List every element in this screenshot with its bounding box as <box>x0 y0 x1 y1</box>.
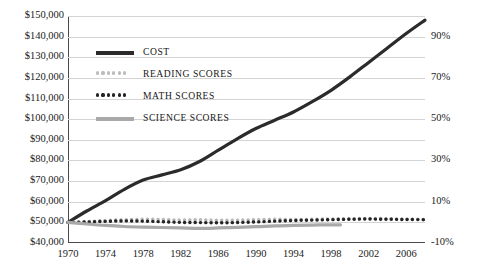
y-axis-right-tick-label: 70% <box>431 71 450 82</box>
y-axis-right-tick-label: 30% <box>431 153 450 164</box>
y-axis-tick-label: $100,000 <box>2 112 64 123</box>
legend-swatch-solid <box>96 117 134 121</box>
y-axis-tick-label: $110,000 <box>2 92 64 103</box>
gridline <box>68 243 425 244</box>
legend-item: MATH SCORES <box>96 86 233 104</box>
y-axis-tick-label: $140,000 <box>2 30 64 41</box>
legend-swatch-dotted <box>96 90 134 100</box>
y-axis-right-tick-label: 10% <box>431 195 450 206</box>
legend-label: READING SCORES <box>143 68 233 79</box>
x-axis-tick-label: 1994 <box>283 248 304 259</box>
y-axis-tick-label: $120,000 <box>2 71 64 82</box>
chart-legend: COSTREADING SCORESMATH SCORESSCIENCE SCO… <box>96 42 233 130</box>
y-axis-tick-label: $130,000 <box>2 50 64 61</box>
legend-label: COST <box>143 46 170 57</box>
legend-item: SCIENCE SCORES <box>96 108 233 126</box>
x-axis-tick-label: 1998 <box>321 248 342 259</box>
y-axis-tick-label: $90,000 <box>2 133 64 144</box>
y-axis-right-tick-label: 50% <box>431 112 450 123</box>
x-axis-tick-label: 1982 <box>170 248 191 259</box>
y-axis-tick-label: $60,000 <box>2 195 64 206</box>
y-axis-tick-label: $80,000 <box>2 153 64 164</box>
x-axis-tick-label: 1978 <box>133 248 154 259</box>
legend-swatch-solid <box>96 51 134 55</box>
y-axis-tick-label: $70,000 <box>2 174 64 185</box>
y-axis-tick-label: $50,000 <box>2 215 64 226</box>
y-axis-tick-label: $150,000 <box>2 9 64 20</box>
y-axis-right-tick-label: 90% <box>431 30 450 41</box>
legend-label: SCIENCE SCORES <box>143 112 229 123</box>
x-axis-tick-label: 2006 <box>396 248 417 259</box>
chart-container: $40,000$50,000$60,000$70,000$80,000$90,0… <box>0 0 480 275</box>
x-axis-tick-label: 1986 <box>208 248 229 259</box>
legend-label: MATH SCORES <box>143 90 215 101</box>
x-axis-tick-label: 1974 <box>95 248 116 259</box>
legend-item: READING SCORES <box>96 64 233 82</box>
x-axis-tick-label: 2002 <box>358 248 379 259</box>
x-axis-tick-label: 1990 <box>245 248 266 259</box>
y-axis-tick-label: $40,000 <box>2 236 64 247</box>
legend-item: COST <box>96 42 233 60</box>
x-axis-tick-label: 1970 <box>58 248 79 259</box>
y-axis-right-tick-label: -10% <box>431 236 454 247</box>
legend-swatch-dotted <box>96 68 134 78</box>
